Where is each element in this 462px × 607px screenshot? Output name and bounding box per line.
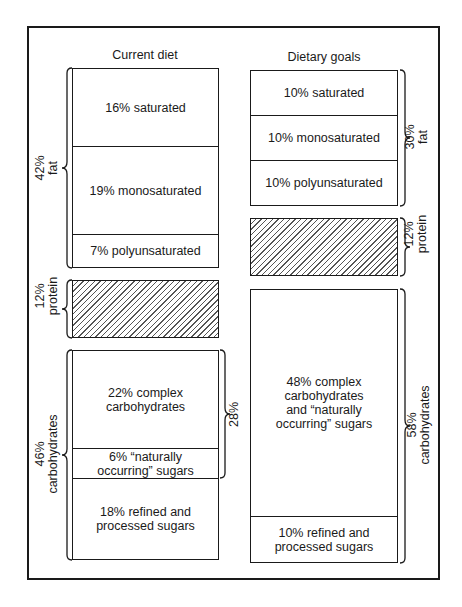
goals-mono-label: 10% monosaturated <box>268 131 380 145</box>
current-saturated-label: 16% saturated <box>105 101 186 115</box>
goals-poly-segment: 10% polyunsaturated <box>251 160 397 205</box>
current-mono-segment: 19% monosaturated <box>73 146 218 234</box>
current-refined-segment: 18% refined and processed sugars <box>73 478 218 559</box>
goals-saturated-label: 10% saturated <box>284 86 365 100</box>
goals-complex-label-3: and “naturally <box>286 403 362 417</box>
current-poly-segment: 7% polyunsaturated <box>73 234 218 267</box>
goals-protein-box <box>250 218 398 276</box>
goals-refined-segment: 10% refined and processed sugars <box>251 516 397 562</box>
current-diet-title: Current diet <box>70 48 220 62</box>
goals-refined-label-2: processed sugars <box>275 540 374 554</box>
goals-carb-box: 48% complex carbohydrates and “naturally… <box>250 289 398 563</box>
current-fat-label: 42%fat <box>34 143 60 193</box>
goals-mono-segment: 10% monosaturated <box>251 115 397 160</box>
goals-poly-label: 10% polyunsaturated <box>265 176 382 190</box>
current-natural-label-2: occurring” sugars <box>97 464 194 478</box>
goals-protein-label: 12%protein <box>403 205 429 263</box>
current-carb-label: 46%carbohydrates <box>34 407 60 501</box>
current-fat-brace <box>60 66 74 270</box>
goals-carb-label: 58%carbohydrates <box>406 378 432 472</box>
current-natural-segment: 6% “naturally occurring” sugars <box>73 448 218 478</box>
current-carb-box: 22% complex carbohydrates 6% “naturally … <box>72 350 219 560</box>
current-refined-label-1: 18% refined and <box>100 505 191 519</box>
current-refined-label-2: processed sugars <box>96 519 195 533</box>
current-protein-label: 12%protein <box>34 267 60 325</box>
dietary-goals-title: Dietary goals <box>249 50 399 64</box>
goals-complex-label-1: 48% complex <box>286 375 361 389</box>
goals-saturated-segment: 10% saturated <box>251 71 397 115</box>
current-complex-segment: 22% complex carbohydrates <box>73 351 218 448</box>
current-fat-box: 16% saturated 19% monosaturated 7% polyu… <box>72 68 219 268</box>
current-saturated-segment: 16% saturated <box>73 69 218 146</box>
goals-refined-label-1: 10% refined and <box>278 526 369 540</box>
goals-fat-box: 10% saturated 10% monosaturated 10% poly… <box>250 70 398 206</box>
current-complex-label-2: carbohydrates <box>106 400 185 414</box>
current-poly-label: 7% polyunsaturated <box>90 244 201 258</box>
current-complex-label-1: 22% complex <box>108 386 183 400</box>
current-protein-box <box>72 280 219 338</box>
current-natural-label-1: 6% “naturally <box>109 450 182 464</box>
goals-complex-label-2: carbohydrates <box>284 389 363 403</box>
current-28pct-label: 28% <box>228 400 241 430</box>
goals-complex-segment: 48% complex carbohydrates and “naturally… <box>251 290 397 516</box>
current-mono-label: 19% monosaturated <box>90 184 202 198</box>
goals-complex-label-4: occurring” sugars <box>276 417 373 431</box>
current-protein-brace <box>60 278 74 340</box>
goals-fat-label: 30%fat <box>404 112 430 162</box>
current-carb-brace <box>60 348 74 562</box>
